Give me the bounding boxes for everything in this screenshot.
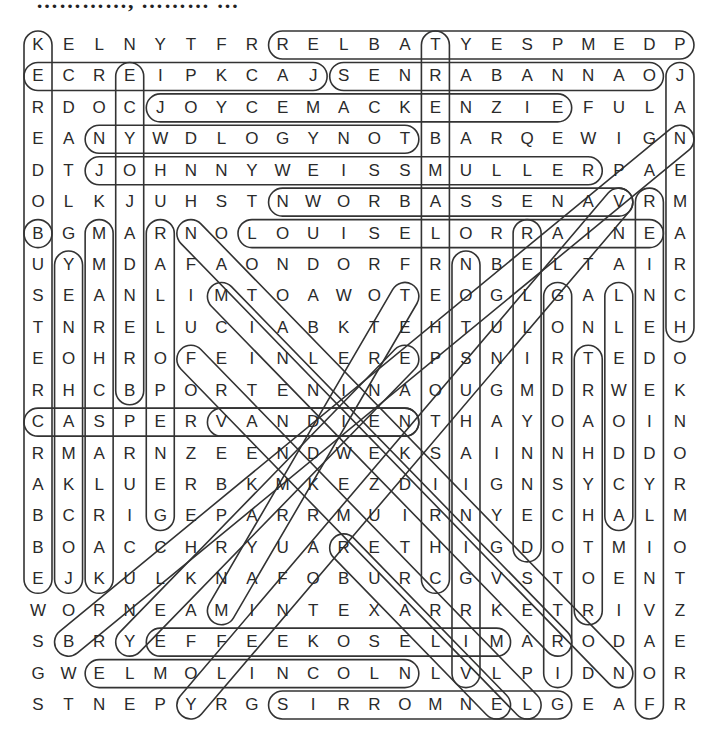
grid-cell[interactable]: F [207,628,235,656]
grid-cell[interactable]: R [85,597,113,625]
grid-cell[interactable]: I [238,314,266,342]
grid-cell[interactable]: O [360,282,388,310]
grid-cell[interactable]: N [116,282,144,310]
grid-cell[interactable]: N [574,62,602,90]
grid-cell[interactable]: O [55,534,83,562]
grid-cell[interactable]: I [605,597,633,625]
grid-cell[interactable]: E [574,691,602,719]
grid-cell[interactable]: Z [666,597,694,625]
grid-cell[interactable]: E [146,471,174,499]
grid-cell[interactable]: I [544,660,572,688]
grid-cell[interactable]: O [635,660,663,688]
grid-cell[interactable]: L [238,220,266,248]
grid-cell[interactable]: T [238,282,266,310]
grid-cell[interactable]: E [544,157,572,185]
grid-cell[interactable]: R [116,345,144,373]
grid-cell[interactable]: A [574,188,602,216]
grid-cell[interactable]: C [55,502,83,530]
grid-cell[interactable]: T [238,377,266,405]
grid-cell[interactable]: R [666,660,694,688]
grid-cell[interactable]: T [391,125,419,153]
grid-cell[interactable]: E [116,314,144,342]
grid-cell[interactable]: E [513,502,541,530]
grid-cell[interactable]: R [24,94,52,122]
grid-cell[interactable]: G [483,282,511,310]
grid-cell[interactable]: I [330,157,358,185]
grid-cell[interactable]: S [207,188,235,216]
grid-cell[interactable]: N [116,31,144,59]
grid-cell[interactable]: E [55,31,83,59]
grid-cell[interactable]: E [605,345,633,373]
grid-cell[interactable]: J [146,94,174,122]
grid-cell[interactable]: O [330,188,358,216]
grid-cell[interactable]: A [574,282,602,310]
grid-cell[interactable]: A [574,408,602,436]
grid-cell[interactable]: L [513,691,541,719]
grid-cell[interactable]: O [544,314,572,342]
grid-cell[interactable]: N [177,157,205,185]
grid-cell[interactable]: S [360,220,388,248]
grid-cell[interactable]: P [146,691,174,719]
grid-cell[interactable]: U [269,534,297,562]
grid-cell[interactable]: A [483,408,511,436]
grid-cell[interactable]: A [299,282,327,310]
grid-cell[interactable]: E [24,345,52,373]
grid-cell[interactable]: E [483,691,511,719]
grid-cell[interactable]: A [452,125,480,153]
grid-cell[interactable]: N [299,377,327,405]
grid-cell[interactable]: I [238,345,266,373]
grid-cell[interactable]: K [299,628,327,656]
grid-cell[interactable]: M [421,157,449,185]
grid-cell[interactable]: G [544,691,572,719]
grid-cell[interactable]: N [391,408,419,436]
grid-cell[interactable]: B [55,628,83,656]
grid-cell[interactable]: Y [207,94,235,122]
grid-cell[interactable]: C [146,534,174,562]
grid-cell[interactable]: I [177,282,205,310]
grid-cell[interactable]: Y [635,471,663,499]
grid-cell[interactable]: L [421,660,449,688]
grid-cell[interactable]: N [207,157,235,185]
grid-cell[interactable]: A [666,220,694,248]
grid-cell[interactable]: A [513,628,541,656]
grid-cell[interactable]: I [238,660,266,688]
grid-cell[interactable]: E [238,440,266,468]
grid-cell[interactable]: T [544,597,572,625]
grid-cell[interactable]: Y [177,691,205,719]
grid-cell[interactable]: N [483,345,511,373]
grid-cell[interactable]: E [207,345,235,373]
grid-cell[interactable]: E [483,31,511,59]
grid-cell[interactable]: W [574,125,602,153]
grid-cell[interactable]: E [666,628,694,656]
grid-cell[interactable]: T [55,691,83,719]
grid-cell[interactable]: A [85,282,113,310]
grid-cell[interactable]: C [55,62,83,90]
grid-cell[interactable]: N [391,660,419,688]
grid-cell[interactable]: B [421,125,449,153]
grid-cell[interactable]: E [269,377,297,405]
grid-cell[interactable]: O [269,282,297,310]
grid-cell[interactable]: G [483,534,511,562]
grid-cell[interactable]: D [544,377,572,405]
grid-cell[interactable]: M [85,220,113,248]
grid-cell[interactable]: A [391,377,419,405]
grid-cell[interactable]: N [605,220,633,248]
grid-cell[interactable]: T [574,251,602,279]
grid-cell[interactable]: N [330,125,358,153]
grid-cell[interactable]: N [269,440,297,468]
grid-cell[interactable]: N [269,597,297,625]
grid-cell[interactable]: O [330,660,358,688]
grid-cell[interactable]: T [24,314,52,342]
grid-cell[interactable]: L [421,628,449,656]
grid-cell[interactable]: N [391,62,419,90]
grid-cell[interactable]: Y [238,534,266,562]
grid-cell[interactable]: T [299,597,327,625]
grid-cell[interactable]: L [605,314,633,342]
grid-cell[interactable]: T [574,345,602,373]
grid-cell[interactable]: D [605,440,633,468]
grid-cell[interactable]: N [452,691,480,719]
grid-cell[interactable]: L [146,565,174,593]
grid-cell[interactable]: C [666,282,694,310]
grid-cell[interactable]: R [635,188,663,216]
grid-cell[interactable]: I [452,471,480,499]
